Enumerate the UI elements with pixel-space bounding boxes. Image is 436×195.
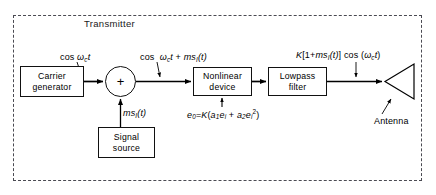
block-carrier-generator[interactable]: Carrier generator [20, 66, 84, 97]
block-nonlinear-device[interactable]: Nonlinear device [193, 67, 252, 96]
block-carrier-generator-line2: generator [33, 82, 72, 93]
block-signal-source-line1: Signal [114, 132, 139, 143]
signal-label-transmitted: K[1+msI(t)] cos (ωct) [296, 50, 380, 61]
antenna-label: Antenna [374, 116, 409, 126]
block-lowpass-filter-line2: filter [289, 82, 307, 93]
signal-label-carrier-out: cos ωct [60, 52, 90, 63]
block-lowpass-filter-line1: Lowpass [280, 71, 316, 82]
block-nonlinear-device-line2: device [209, 82, 235, 93]
signal-label-sum-out: cos ωct + msI(t) [140, 52, 207, 63]
plus-icon: + [106, 67, 135, 96]
block-nonlinear-device-line1: Nonlinear [203, 71, 242, 82]
block-carrier-generator-line1: Carrier [38, 71, 66, 82]
summing-junction[interactable]: + [105, 66, 136, 97]
transmitter-label: Transmitter [84, 18, 135, 29]
diagram-canvas: Transmitter [0, 0, 436, 195]
block-signal-source-line2: source [113, 143, 140, 154]
transmitter-boundary [13, 15, 422, 181]
signal-label-nonlinear-equation: e0=K(a1ei + a2ei2) [187, 108, 259, 120]
block-lowpass-filter[interactable]: Lowpass filter [268, 67, 327, 96]
block-signal-source[interactable]: Signal source [98, 127, 155, 158]
signal-label-modulating: msI(t) [123, 108, 146, 119]
